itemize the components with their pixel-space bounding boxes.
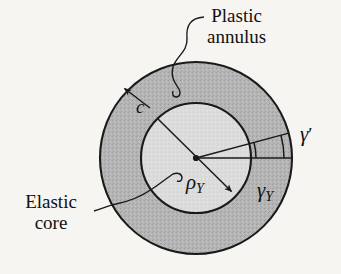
rho-yield-label: ρY <box>186 170 204 197</box>
gamma-yield-label: γY <box>257 178 273 205</box>
plastic-annulus-label-line1: Plastic <box>211 5 262 26</box>
gamma-prime-label: γ′ <box>300 122 312 147</box>
rho-yield-subscript: Y <box>196 180 204 196</box>
figure-container: Plastic annulus Elastic core c γ′ γY ρY <box>0 0 341 274</box>
gamma-prime-mark: ′ <box>308 124 312 145</box>
annulus-thickness-symbol: c <box>136 96 144 117</box>
center-point <box>193 155 199 161</box>
rho-yield-symbol: ρ <box>186 170 196 194</box>
plastic-annulus-label: Plastic annulus <box>207 6 266 47</box>
elastic-core-label: Elastic core <box>8 192 94 233</box>
elastic-core-label-line2: core <box>8 213 94 234</box>
annulus-thickness-label: c <box>136 96 144 118</box>
gamma-yield-subscript: Y <box>265 188 273 204</box>
elastic-core-label-line1: Elastic <box>25 191 77 212</box>
plastic-annulus-label-line2: annulus <box>207 27 266 48</box>
